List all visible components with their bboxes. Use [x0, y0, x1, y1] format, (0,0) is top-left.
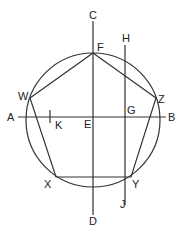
- pentagon-construction-diagram: C F H W Z G A B K E X Y J D: [0, 0, 184, 235]
- label-y: Y: [132, 178, 140, 190]
- label-w: W: [18, 90, 29, 102]
- label-j: J: [120, 198, 126, 210]
- label-d: D: [89, 215, 97, 227]
- label-a: A: [7, 111, 15, 123]
- label-g: G: [127, 104, 136, 116]
- label-e: E: [84, 118, 91, 130]
- label-f: F: [97, 41, 104, 53]
- label-b: B: [168, 111, 175, 123]
- label-z: Z: [158, 93, 165, 105]
- label-k: K: [55, 119, 63, 131]
- label-x: X: [44, 178, 52, 190]
- label-h: H: [122, 32, 130, 44]
- label-c: C: [89, 9, 97, 21]
